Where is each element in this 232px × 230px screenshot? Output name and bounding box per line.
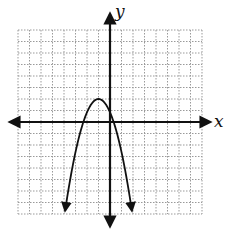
parabola-curve <box>65 99 132 211</box>
y-axis-label: y <box>114 1 125 21</box>
x-axis-label: x <box>214 111 224 131</box>
coordinate-graph: y x <box>0 0 232 230</box>
